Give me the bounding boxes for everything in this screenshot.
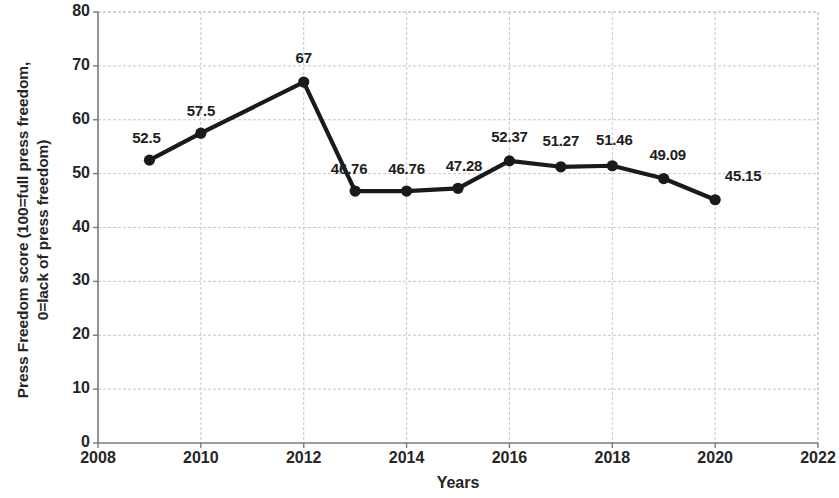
data-point-label: 67 [296,49,312,66]
y-axis-tick-label: 50 [44,164,90,182]
data-point-marker [298,76,309,87]
y-axis-tick-label: 80 [44,2,90,20]
x-axis-tick-label: 2016 [474,449,544,467]
x-axis-tick-label: 2018 [577,449,647,467]
data-point-marker [195,128,206,139]
x-axis-tick-label: 2022 [783,449,839,467]
y-axis-tick-labels: 01020304050607080 [40,0,90,498]
y-axis-tick-label: 60 [44,110,90,128]
data-point-marker [452,183,463,194]
y-axis-tick-label: 10 [44,379,90,397]
data-point-label: 51.46 [596,131,633,148]
data-point-marker [401,185,412,196]
x-axis-tick-label: 2020 [680,449,750,467]
data-point-marker [350,185,361,196]
x-axis-tick-label: 2010 [166,449,236,467]
data-point-label: 52.37 [491,128,528,145]
data-point-marker [504,155,515,166]
data-point-label: 49.09 [649,146,686,163]
x-axis-tick-label: 2012 [269,449,339,467]
x-axis-title: Years [98,474,818,492]
data-point-label: 57.5 [187,102,215,119]
y-axis-tick-label: 30 [44,271,90,289]
data-point-marker [658,173,669,184]
y-axis-tick-label: 70 [44,56,90,74]
data-point-label: 46.76 [388,160,425,177]
data-point-label: 46.76 [331,160,368,177]
data-point-label: 52.5 [132,129,160,146]
data-point-marker [555,161,566,172]
data-point-label: 47.28 [446,157,483,174]
press-freedom-line-chart: Press Freedom score (100=full press free… [0,0,839,498]
plot-area [0,0,839,498]
data-point-marker [144,155,155,166]
data-point-label: 51.27 [543,132,580,149]
y-axis-tick-label: 20 [44,325,90,343]
y-axis-title-line-1: Press Freedom score (100=full press free… [14,62,31,398]
y-axis-tick-label: 40 [44,218,90,236]
data-point-marker [710,194,721,205]
x-axis-tick-label: 2008 [63,449,133,467]
data-point-label: 45.15 [725,167,762,184]
x-axis-tick-label: 2014 [372,449,442,467]
data-point-marker [607,160,618,171]
